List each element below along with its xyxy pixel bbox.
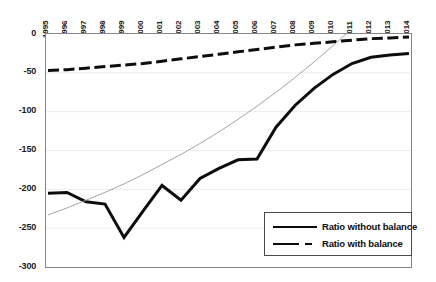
y-axis-tick-neg100: -100 xyxy=(2,106,36,115)
series-line-ratio-without-balance xyxy=(48,53,409,237)
y-axis-tick-neg150: -150 xyxy=(2,145,36,154)
series-lines xyxy=(48,34,409,237)
chart-container: 0-50-100-150-200-250-300 199519961997199… xyxy=(0,0,436,282)
y-axis-tick-0: 0 xyxy=(2,29,36,38)
legend-item-ratio-without-balance: Ratio without balance xyxy=(265,218,411,235)
y-axis-tick-neg250: -250 xyxy=(2,223,36,232)
y-axis-tick-neg200: -200 xyxy=(2,184,36,193)
y-axis-tick-neg300: -300 xyxy=(2,262,36,271)
y-axis-tick-neg50: -50 xyxy=(2,67,36,76)
chart-legend: Ratio without balance Ratio with balance xyxy=(264,212,412,256)
legend-swatch-solid xyxy=(273,222,317,232)
legend-item-ratio-with-balance: Ratio with balance xyxy=(265,235,411,252)
legend-label-ratio-with-balance: Ratio with balance xyxy=(322,238,403,249)
legend-label-ratio-without-balance: Ratio without balance xyxy=(322,221,417,232)
series-line-ratio-with-balance xyxy=(48,37,409,70)
legend-swatch-dashed xyxy=(273,239,317,249)
